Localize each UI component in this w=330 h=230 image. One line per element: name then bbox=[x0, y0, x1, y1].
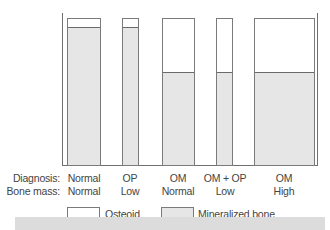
footer-band bbox=[15, 217, 325, 230]
bar-normal-normal bbox=[67, 18, 101, 166]
mineralized-segment bbox=[255, 72, 314, 165]
bar-om-normal bbox=[162, 18, 195, 166]
bone-mass-label: Normal bbox=[64, 185, 104, 198]
right-axis-line bbox=[317, 13, 318, 166]
diagnosis-label: Normal bbox=[64, 172, 104, 185]
diagnosis-label: OM bbox=[264, 172, 304, 185]
mineralized-segment bbox=[68, 27, 100, 165]
bone-mass-label: Low bbox=[199, 185, 251, 198]
mineralized-segment bbox=[163, 72, 194, 165]
bar-op-low bbox=[122, 18, 139, 166]
bar-om-high bbox=[254, 18, 315, 166]
bar-om-op-low bbox=[216, 18, 233, 166]
bone-mass-label: Normal bbox=[158, 185, 198, 198]
mineralized-segment bbox=[217, 72, 232, 165]
bone-mass-label: Low bbox=[110, 185, 150, 198]
bone-mass-row-label: Bone mass: bbox=[4, 185, 60, 198]
left-axis-line bbox=[62, 13, 63, 166]
mineralized-segment bbox=[123, 27, 138, 165]
diagnosis-row-label: Diagnosis: bbox=[4, 172, 60, 185]
diagnosis-label: OP bbox=[110, 172, 150, 185]
diagnosis-label: OM bbox=[158, 172, 198, 185]
diagnosis-label: OM + OP bbox=[199, 172, 251, 185]
bone-mass-label: High bbox=[264, 185, 304, 198]
